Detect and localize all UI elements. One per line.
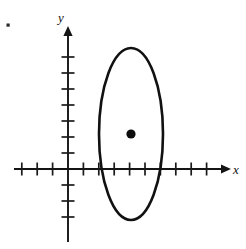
coordinate-plane-figure: y x: [0, 0, 246, 249]
scan-speck-icon: [7, 24, 10, 27]
arrow-up-icon: [63, 26, 72, 36]
x-axis-label: x: [232, 162, 239, 177]
figure-root: y x: [0, 0, 246, 249]
x-axis-group: [14, 163, 231, 176]
ellipse-center-point: [126, 129, 135, 138]
arrow-right-icon: [221, 164, 231, 173]
y-axis-group: [62, 26, 75, 242]
y-axis-label: y: [56, 10, 64, 25]
